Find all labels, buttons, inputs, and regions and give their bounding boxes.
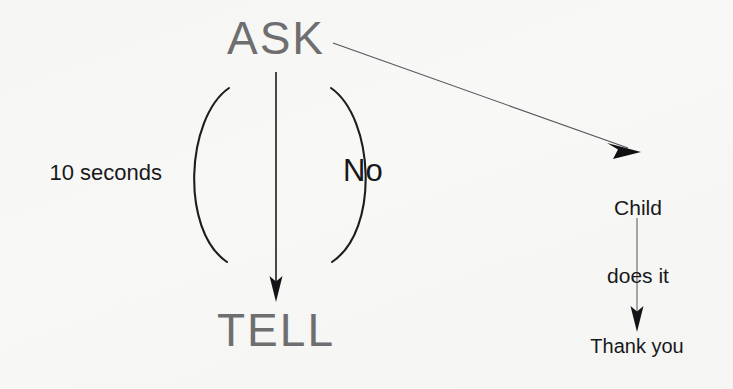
node-child-does-it: Child does it <box>562 152 714 333</box>
node-ask: ASK <box>0 14 552 64</box>
edge-ask-to-tell <box>270 72 283 302</box>
node-tell: TELL <box>0 306 552 356</box>
node-child-does-it-line-2: does it <box>562 265 714 288</box>
edge-label-no: No <box>343 154 383 187</box>
edge-ask-loop-left-arc <box>194 88 229 262</box>
node-thank-you: Thank you <box>556 336 718 358</box>
diagram-canvas: ASK TELL 10 seconds No Child does it Tha… <box>0 0 733 389</box>
node-child-does-it-line-1: Child <box>562 197 714 220</box>
edge-label-ten-seconds: 10 seconds <box>0 161 162 185</box>
